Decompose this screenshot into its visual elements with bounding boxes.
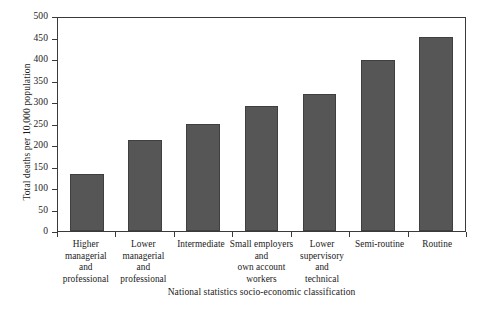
x-axis-category-label-line: own account — [230, 262, 294, 274]
x-axis-category-label-line: and — [293, 262, 351, 274]
y-axis-tick-label: 450 — [0, 34, 48, 44]
x-axis-tick — [232, 232, 233, 237]
x-axis-tick — [57, 232, 58, 237]
bar-slot — [58, 18, 116, 231]
y-axis-tick-label: 150 — [0, 163, 48, 173]
bar — [361, 60, 395, 231]
bar-slot — [174, 18, 232, 231]
x-axis-category-label-line: Intermediate — [172, 239, 230, 251]
bar — [245, 106, 279, 231]
x-axis-category-label-line: workers — [230, 274, 294, 286]
x-axis-category-label: Lowersupervisoryandtechnical — [293, 239, 351, 285]
bar — [303, 94, 337, 231]
bar — [70, 174, 104, 232]
x-axis-category-label-line: Lower — [293, 239, 351, 251]
x-axis-category-label-line: professional — [57, 274, 115, 286]
x-axis-category-label-line: supervisory — [293, 251, 351, 263]
x-axis-category-label-line: and — [57, 262, 115, 274]
bar — [128, 140, 162, 231]
y-axis-tick-label: 300 — [0, 98, 48, 108]
y-axis-tick-label: 50 — [0, 206, 48, 216]
plot-area — [57, 17, 466, 232]
x-axis-tick — [291, 232, 292, 237]
y-axis-tick-label: 0 — [0, 227, 48, 237]
x-axis-title: National statistics socio-economic class… — [57, 287, 466, 297]
bar-slot — [349, 18, 407, 231]
x-axis-category-label-line: Routine — [408, 239, 466, 251]
x-axis-tick — [349, 232, 350, 237]
x-axis-category-label: Intermediate — [172, 239, 230, 285]
x-axis-category-label-line: technical — [293, 274, 351, 286]
bar — [186, 124, 220, 231]
x-axis-category-label-line: managerial — [115, 251, 173, 263]
x-axis-category-labels: HighermanagerialandprofessionalLowermana… — [57, 239, 466, 285]
x-axis-tick — [174, 232, 175, 237]
x-axis-tick — [115, 232, 116, 237]
y-axis-tick-label: 500 — [0, 12, 48, 22]
x-axis-tick — [408, 232, 409, 237]
y-axis-tick-label: 200 — [0, 141, 48, 151]
x-axis-category-label-line: Higher — [57, 239, 115, 251]
x-axis-tick — [466, 232, 467, 237]
x-axis-category-label-line: Lower — [115, 239, 173, 251]
bar-slot — [116, 18, 174, 231]
y-axis-tick-label: 250 — [0, 120, 48, 130]
y-axis-tick-label: 350 — [0, 77, 48, 87]
bar — [419, 37, 453, 231]
bar-series — [58, 18, 465, 231]
bar-slot — [407, 18, 465, 231]
x-axis-category-label-line: Semi-routine — [351, 239, 409, 251]
bar-chart-figure: Total deaths per 10,000 population 05010… — [0, 0, 484, 311]
x-axis-category-label-line: managerial — [57, 251, 115, 263]
x-axis-category-label-line: Small employers — [230, 239, 294, 251]
x-axis-category-label: Highermanagerialandprofessional — [57, 239, 115, 285]
y-axis-tick-label: 100 — [0, 184, 48, 194]
x-axis-category-label: Lowermanagerialandprofessional — [115, 239, 173, 285]
x-axis-category-label: Semi-routine — [351, 239, 409, 285]
bar-slot — [291, 18, 349, 231]
x-axis-category-label-line: and — [230, 251, 294, 263]
x-axis-category-label: Small employersandown accountworkers — [230, 239, 294, 285]
x-axis-category-label-line: and — [115, 262, 173, 274]
bar-slot — [232, 18, 290, 231]
y-axis-tick-label: 400 — [0, 55, 48, 65]
x-axis-category-label-line: professional — [115, 274, 173, 286]
x-axis-category-label: Routine — [408, 239, 466, 285]
